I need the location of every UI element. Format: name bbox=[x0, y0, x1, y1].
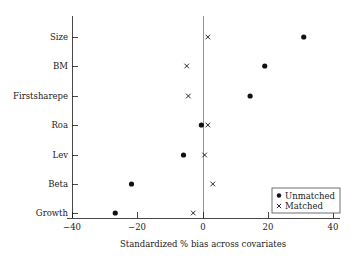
figure-container: Size BM Firstsharepe Roa Lev Beta Growth… bbox=[0, 0, 352, 262]
point-unmatched-size bbox=[301, 34, 306, 39]
point-unmatched-bm bbox=[262, 63, 267, 68]
y-tick-label-beta: Beta bbox=[48, 179, 68, 189]
x-axis-title: Standardized % bias across covariates bbox=[120, 239, 286, 249]
x-tick-label-20: 20 bbox=[263, 222, 274, 232]
x-tick-label-neg20: −20 bbox=[128, 222, 146, 232]
point-unmatched-firstsharepe bbox=[248, 93, 253, 98]
point-matched-bm bbox=[184, 64, 189, 69]
x-tick-label-zero: 0 bbox=[200, 222, 205, 232]
legend-marker-unmatched-icon bbox=[277, 193, 281, 197]
point-matched-growth bbox=[191, 211, 196, 216]
point-matched-size bbox=[206, 35, 211, 40]
x-tick-label-40: 40 bbox=[328, 222, 339, 232]
x-axis-tick-labels: −40 −20 0 20 40 bbox=[63, 222, 338, 232]
x-tick-label-neg40: −40 bbox=[63, 222, 81, 232]
legend-label-unmatched: Unmatched bbox=[285, 191, 335, 201]
point-unmatched-lev bbox=[181, 152, 186, 157]
plot-canvas: Size BM Firstsharepe Roa Lev Beta Growth… bbox=[0, 0, 352, 262]
y-tick-label-roa: Roa bbox=[51, 120, 68, 130]
point-matched-firstsharepe bbox=[186, 94, 191, 99]
point-unmatched-roa bbox=[199, 122, 204, 127]
point-unmatched-beta bbox=[129, 181, 134, 186]
y-axis-tick-labels: Size BM Firstsharepe Roa Lev Beta Growth bbox=[13, 32, 68, 218]
y-tick-label-firstsharepe: Firstsharepe bbox=[13, 91, 68, 101]
legend-label-matched: Matched bbox=[285, 201, 323, 211]
scatter-plot: Size BM Firstsharepe Roa Lev Beta Growth… bbox=[0, 0, 352, 262]
y-tick-label-bm: BM bbox=[53, 61, 68, 71]
point-matched-beta bbox=[210, 182, 215, 187]
point-unmatched-growth bbox=[113, 210, 118, 215]
y-axis-ticks bbox=[72, 37, 78, 213]
point-matched-roa bbox=[206, 123, 211, 128]
y-tick-label-lev: Lev bbox=[53, 150, 69, 160]
legend[interactable]: Unmatched Matched bbox=[272, 188, 340, 213]
y-tick-label-size: Size bbox=[50, 32, 68, 42]
y-tick-label-growth: Growth bbox=[36, 208, 69, 218]
